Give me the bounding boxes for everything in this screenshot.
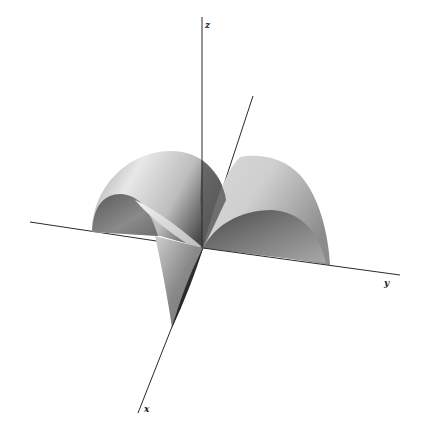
y-axis-label: y — [384, 279, 389, 288]
cusp-surface — [155, 236, 203, 328]
x-axis-label: x — [144, 405, 149, 414]
z-axis-label: z — [205, 21, 210, 30]
surface-figure — [0, 0, 422, 429]
